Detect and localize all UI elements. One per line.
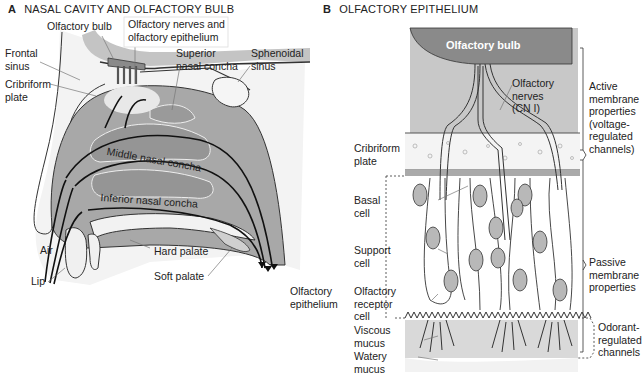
label-basal-cell: Basal cell (354, 194, 380, 219)
label-olfactory-receptor-cell: Olfactory receptor cell (354, 285, 396, 323)
label-olfactory-bulb-b: Olfactory bulb (446, 39, 521, 51)
label-support-cell: Support cell (354, 244, 391, 269)
label-cribriform-plate-b: Cribriform plate (354, 142, 400, 167)
label-olfactory-nerves: Olfactory nerves (CN I) (512, 77, 554, 115)
label-viscous-mucus: Viscous mucus (354, 324, 391, 349)
label-passive-membrane: Passive membrane properties (589, 256, 639, 294)
label-olfactory-epithelium: Olfactory epithelium (290, 285, 338, 310)
olfactory-epithelium-illustration (0, 0, 644, 381)
label-odorant-regulated: Odorant- regulated channels (598, 321, 642, 359)
label-active-membrane: Active membrane properties (voltage- reg… (589, 80, 639, 155)
label-watery-mucus: Watery mucus (354, 350, 387, 375)
